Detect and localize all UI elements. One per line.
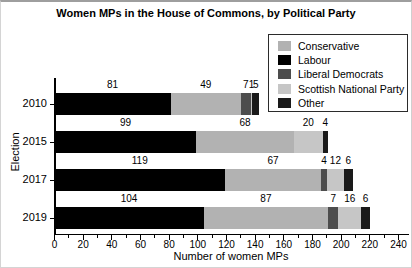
legend-item-label: Conservative [298, 40, 359, 52]
x-tick-label: 40 [106, 239, 117, 250]
x-axis-minor-tick [355, 235, 356, 238]
legend-item: Scottish National Party [278, 82, 407, 96]
legend-item-label: Liberal Democrats [298, 68, 383, 80]
bar-segment [55, 169, 226, 191]
y-tick-label: 2019 [7, 211, 47, 223]
bar-segment [204, 207, 329, 229]
y-axis-tick [50, 218, 55, 219]
legend-swatch-icon [278, 84, 291, 94]
bar-segment [241, 93, 251, 115]
x-axis-minor-tick [298, 235, 299, 238]
bar-segment [344, 169, 353, 191]
bar-segment [55, 93, 171, 115]
y-tick-label: 2010 [7, 97, 47, 109]
x-axis-minor-tick [97, 235, 98, 238]
bar-segment [361, 207, 370, 229]
x-axis-minor-tick [126, 235, 127, 238]
bar-segment [294, 131, 323, 153]
bar-value-label: 4 [321, 155, 327, 166]
legend-swatch-icon [278, 55, 291, 65]
bar-segment [327, 169, 344, 191]
legend-item-label: Labour [298, 54, 331, 66]
x-axis-minor-tick [269, 235, 270, 238]
x-axis-minor-tick [183, 235, 184, 238]
bar-value-label: 104 [121, 193, 138, 204]
x-tick-label: 220 [361, 239, 378, 250]
bar-segment [328, 207, 338, 229]
legend-item: Liberal Democrats [278, 67, 407, 81]
bar-value-label: 4 [323, 117, 329, 128]
x-tick-label: 100 [189, 239, 206, 250]
legend-swatch-icon [278, 98, 291, 108]
legend-item: Other [278, 96, 407, 110]
x-axis-minor-tick [326, 235, 327, 238]
bar-segment [225, 169, 321, 191]
x-tick-label: 240 [390, 239, 407, 250]
x-tick-label: 140 [247, 239, 264, 250]
x-axis-minor-tick [212, 235, 213, 238]
legend-swatch-icon [278, 69, 291, 79]
x-axis-label: Number of women MPs [174, 250, 289, 262]
x-tick-label: 200 [333, 239, 350, 250]
bar-value-label: 119 [132, 155, 148, 166]
x-axis-minor-tick [240, 235, 241, 238]
bar-segment [338, 207, 361, 229]
x-tick-label: 80 [164, 239, 175, 250]
x-tick-label: 160 [275, 239, 292, 250]
bar-value-label: 6 [363, 193, 369, 204]
bar-value-label: 6 [346, 155, 352, 166]
x-axis-minor-tick [384, 235, 385, 238]
bar-value-label: 49 [200, 79, 211, 90]
bar-value-label: 81 [107, 79, 118, 90]
bar-segment [196, 131, 293, 153]
bar-value-label: 67 [268, 155, 279, 166]
x-axis-minor-tick [154, 235, 155, 238]
bar-segment [55, 207, 204, 229]
x-tick-label: 20 [78, 239, 89, 250]
y-axis-tick [50, 180, 55, 181]
bar-value-label: 99 [120, 117, 131, 128]
bar-value-label: 7 [243, 79, 249, 90]
x-tick-label: 120 [218, 239, 235, 250]
bar-value-label: 5 [253, 79, 259, 90]
bar-segment [252, 93, 259, 115]
legend-item: Labour [278, 53, 407, 67]
bar-value-label: 12 [330, 155, 341, 166]
legend-box: ConservativeLabourLiberal DemocratsScott… [268, 34, 408, 112]
bar-segment [323, 131, 329, 153]
x-tick-label: 0 [52, 239, 58, 250]
y-axis-tick [50, 104, 55, 105]
x-tick-label: 180 [304, 239, 321, 250]
x-tick-label: 60 [135, 239, 146, 250]
legend-item-label: Scottish National Party [298, 83, 404, 95]
bar-segment [171, 93, 241, 115]
bar-value-label: 87 [260, 193, 271, 204]
chart-title: Women MPs in the House of Commons, by Po… [1, 7, 411, 19]
y-tick-label: 2015 [7, 135, 47, 147]
bar-value-label: 68 [240, 117, 251, 128]
y-axis-tick [50, 142, 55, 143]
y-tick-label: 2017 [7, 173, 47, 185]
bar-value-label: 7 [330, 193, 336, 204]
bar-value-label: 16 [344, 193, 355, 204]
chart-figure: Women MPs in the House of Commons, by Po… [0, 0, 412, 268]
bar-segment [55, 131, 197, 153]
x-axis-minor-tick [68, 235, 69, 238]
bar-value-label: 20 [303, 117, 314, 128]
legend-swatch-icon [278, 41, 291, 51]
legend-item-label: Other [298, 97, 324, 109]
legend-item: Conservative [278, 39, 407, 53]
